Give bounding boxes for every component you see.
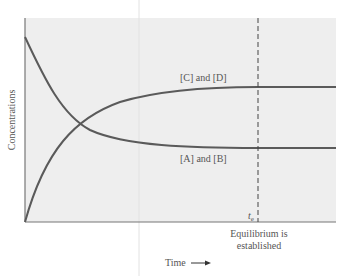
reactants-curve-label: [A] and [B] bbox=[180, 153, 227, 164]
plot-area bbox=[25, 18, 336, 222]
products-curve-label: [C] and [D] bbox=[180, 72, 227, 83]
equilibrium-label-line2: established bbox=[237, 240, 281, 251]
x-axis-label: Time bbox=[165, 257, 186, 268]
equilibrium-concentration-chart: [C] and [D] [A] and [B] te Equilibrium i… bbox=[0, 0, 348, 276]
equilibrium-label-line1: Equilibrium is bbox=[230, 228, 288, 239]
time-arrow-icon bbox=[191, 261, 211, 266]
y-axis-label: Concentrations bbox=[6, 90, 17, 151]
